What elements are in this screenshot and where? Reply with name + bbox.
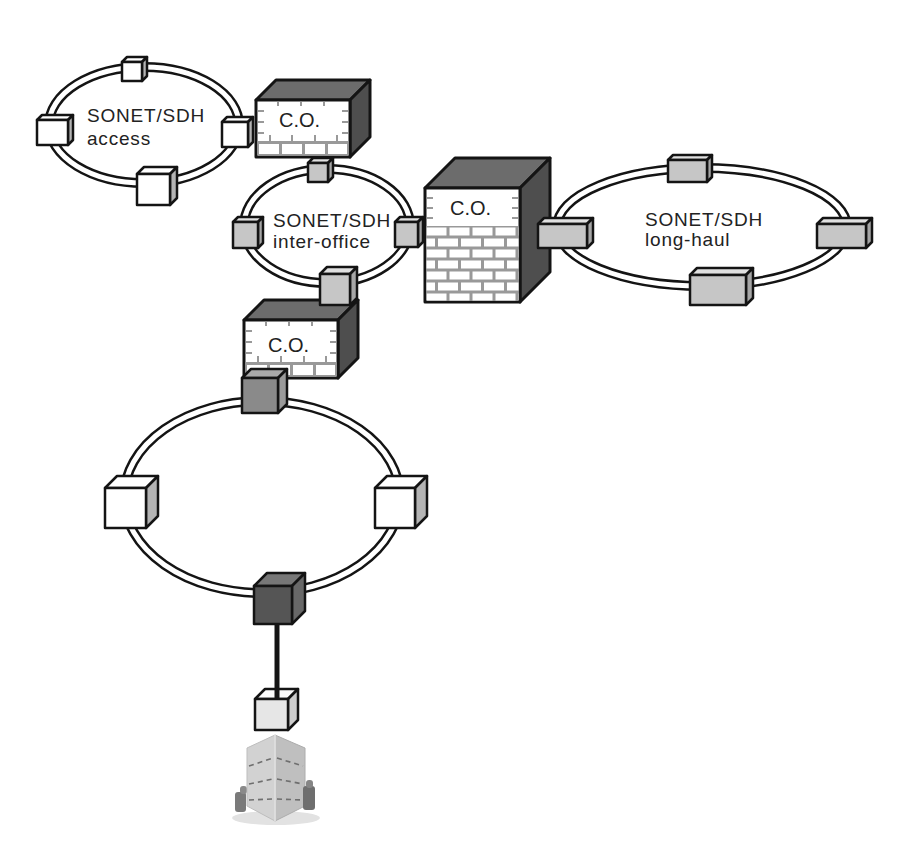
- customer-ring-node-right-icon: [375, 476, 427, 528]
- access-ring-node-bottom-icon: [137, 167, 177, 205]
- customer-ring-node-bottom-icon: [254, 573, 305, 624]
- ring-long-haul-subtitle: long-haul: [645, 229, 730, 250]
- ring-inter-office-subtitle: inter-office: [273, 231, 371, 252]
- access-ring-node-left-icon: [37, 115, 73, 145]
- ring-inter-office-title: SONET/SDH: [273, 210, 391, 231]
- ring-access-subtitle: access: [87, 128, 151, 149]
- customer-ring-node-top-icon: [242, 369, 287, 413]
- inter-office-ring-node-bottom-icon: [320, 267, 357, 305]
- central-office-label: C.O.: [450, 197, 491, 219]
- access-ring-node-top-icon: [122, 57, 147, 81]
- ring-access-title: SONET/SDH: [87, 105, 205, 126]
- inter-office-ring-node-top-icon: [308, 158, 333, 182]
- inter-office-ring-node-right-icon: [395, 217, 423, 247]
- customer-building-icon: [232, 735, 320, 825]
- ring-long-haul-title: SONET/SDH: [645, 209, 763, 230]
- central-office-label: C.O.: [279, 109, 320, 131]
- inter-office-ring-node-left-icon: [233, 217, 263, 248]
- long-haul-ring-node-left-icon: [538, 218, 593, 248]
- ring-customer: [124, 401, 400, 593]
- central-office-building-icon: C.O.: [244, 300, 358, 378]
- central-office-building-icon: C.O.: [425, 158, 550, 302]
- long-haul-ring-node-top-icon: [668, 155, 712, 182]
- sonet-network-diagram: SONET/SDH access SONET/SDH inter-office …: [0, 0, 911, 860]
- long-haul-ring-node-bottom-icon: [690, 268, 753, 305]
- central-office-label: C.O.: [268, 334, 309, 356]
- customer-ring-node-left-icon: [105, 476, 158, 528]
- access-ring-node-right-icon: [222, 117, 253, 147]
- long-haul-ring-node-right-icon: [817, 218, 872, 248]
- central-office-building-icon: C.O.: [256, 80, 370, 157]
